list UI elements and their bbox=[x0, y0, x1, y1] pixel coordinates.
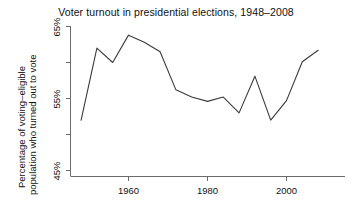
x-tick-label-2000: 2000 bbox=[276, 185, 297, 196]
y-tick-label-65: 65% bbox=[51, 17, 62, 37]
y-tick-label-55: 55% bbox=[51, 89, 62, 109]
chart-figure: Voter turnout in presidential elections,… bbox=[0, 0, 352, 210]
turnout-line-series bbox=[81, 35, 318, 120]
x-tick-label-1980: 1980 bbox=[197, 185, 218, 196]
y-tick-label-45: 45% bbox=[51, 161, 62, 181]
x-tick-label-1960: 1960 bbox=[118, 185, 139, 196]
plot-area: 65% 55% 45% 1960 1980 2000 bbox=[0, 0, 352, 210]
